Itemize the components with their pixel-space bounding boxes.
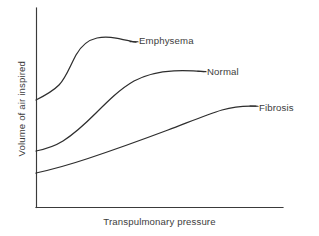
x-axis-title: Transpulmonary pressure [0, 217, 319, 227]
curve-label-fibrosis: Fibrosis [259, 103, 294, 113]
curve-label-normal: Normal [207, 67, 239, 77]
curve-fibrosis [36, 106, 256, 173]
curve-label-emphysema: Emphysema [139, 36, 194, 46]
y-axis-title: Volume of air inspired [17, 39, 27, 179]
lung-compliance-chart: Emphysema Normal Fibrosis Transpulmonary… [0, 0, 319, 236]
